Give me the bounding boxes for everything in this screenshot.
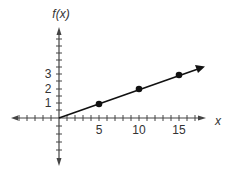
y-axis: 3 2 1 f(x) (45, 7, 70, 166)
y-axis-up-arrow-icon (57, 27, 62, 35)
chart-canvas: 5 10 15 x (0, 0, 233, 177)
data-point-5-1 (96, 101, 103, 108)
y-axis-down-arrow-icon (57, 158, 62, 166)
y-tick-label-1: 1 (45, 96, 52, 110)
x-axis-label: x (214, 114, 222, 128)
x-tick-label-15: 15 (172, 123, 186, 137)
y-tick-label-3: 3 (45, 67, 52, 81)
x-axis-right-arrow-icon (198, 116, 206, 121)
y-tick-label-2: 2 (45, 82, 52, 96)
x-axis: 5 10 15 x (11, 114, 222, 137)
series-f-of-x (59, 65, 205, 118)
line-arrow-icon (195, 65, 205, 73)
x-axis-left-arrow-icon (11, 116, 18, 121)
data-point-15-3 (176, 72, 183, 79)
y-axis-label: f(x) (52, 7, 69, 21)
x-tick-label-10: 10 (132, 123, 146, 137)
x-tick-label-5: 5 (96, 123, 103, 137)
data-point-10-2 (136, 86, 143, 93)
line-chart: 5 10 15 x (0, 0, 233, 177)
